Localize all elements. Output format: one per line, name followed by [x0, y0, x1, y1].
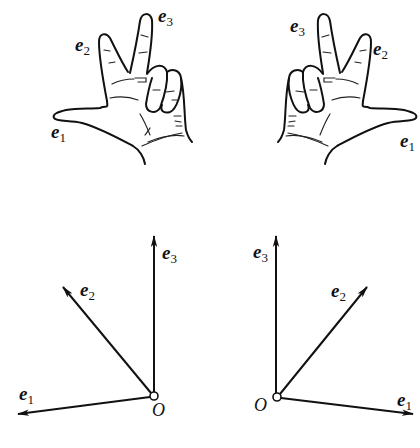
- label-e3-right-frame: e3: [253, 241, 268, 265]
- left-coordinate-frame: [18, 236, 158, 414]
- e2-axis-left: [63, 287, 151, 393]
- right-coordinate-frame: [273, 236, 413, 414]
- label-e3-right-hand: e3: [290, 15, 305, 39]
- label-e3-left-frame: e3: [162, 242, 177, 266]
- label-e1-left-hand: e1: [51, 121, 66, 145]
- label-e3-left-hand: e3: [158, 5, 173, 29]
- label-e2-right-frame: e2: [331, 280, 346, 304]
- e1-axis-right: [281, 398, 413, 414]
- label-e1-right-hand: e1: [400, 130, 415, 154]
- origin-label-left: O: [152, 400, 165, 420]
- figure-canvas: e2 e3 e1 e3 e2 e1 e3 e2 e1 O: [0, 0, 420, 448]
- label-e1-right-frame: e1: [397, 389, 412, 413]
- e1-axis-left: [18, 397, 150, 414]
- e2-axis-right: [280, 287, 367, 394]
- label-e1-left-frame: e1: [19, 383, 34, 407]
- origin-point-right: [273, 393, 281, 401]
- origin-label-right: O: [254, 395, 267, 415]
- label-e2-left-frame: e2: [80, 279, 95, 303]
- label-e2-right-hand: e2: [373, 38, 388, 62]
- label-e2-left-hand: e2: [75, 34, 90, 58]
- origin-point-left: [150, 392, 158, 400]
